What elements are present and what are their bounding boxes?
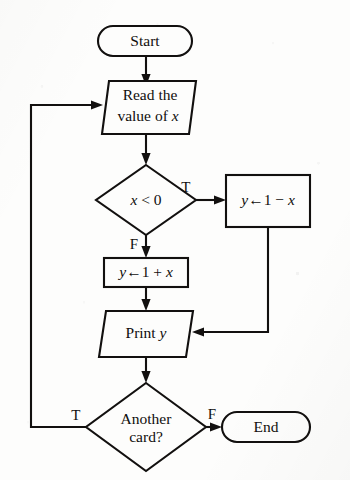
node-assign-plus-label: y←1 + x bbox=[117, 263, 173, 280]
edge-test-false-to-assign-plus bbox=[141, 235, 150, 258]
edge-print-to-another bbox=[141, 357, 150, 383]
node-assign-plus[interactable]: y←1 + x bbox=[104, 258, 188, 287]
node-start[interactable]: Start bbox=[98, 26, 192, 56]
arrowhead-icon bbox=[210, 422, 222, 431]
node-read[interactable]: Read the value of x bbox=[102, 81, 196, 134]
branch-label-test-true: T bbox=[181, 179, 190, 195]
flowchart-page: Start Read the value of x x < 0 T F y←1 … bbox=[0, 0, 350, 480]
node-read-label-line1: Read the bbox=[123, 86, 178, 103]
node-read-label-prefix: value of bbox=[117, 107, 171, 124]
node-assign-minus-label: y←1 − x bbox=[239, 191, 295, 208]
arrowhead-icon bbox=[214, 195, 226, 204]
edge-another-false-to-end bbox=[206, 422, 222, 431]
node-print-label-text: Print bbox=[126, 324, 160, 341]
arrowhead-icon bbox=[141, 299, 150, 311]
node-assign-minus-arrow-icon: ← bbox=[248, 191, 264, 208]
branch-label-another-true: T bbox=[71, 407, 80, 423]
branch-label-another-false: F bbox=[208, 406, 217, 422]
node-another-label-line1: Another bbox=[121, 410, 173, 427]
flowchart-canvas: Start Read the value of x x < 0 T F y←1 … bbox=[0, 0, 350, 480]
edge-read-to-test bbox=[141, 135, 150, 165]
node-another-label-line2: card? bbox=[129, 428, 163, 445]
edge-test-true-to-assign-minus bbox=[196, 195, 226, 204]
arrowhead-icon bbox=[141, 246, 150, 258]
arrowhead-icon bbox=[192, 327, 204, 336]
arrowhead-icon bbox=[141, 371, 150, 383]
node-test-label: x < 0 bbox=[129, 191, 161, 208]
node-test-label-var: x bbox=[129, 191, 137, 208]
arrowhead-icon bbox=[141, 153, 150, 165]
node-assign-plus-var2: x bbox=[165, 263, 173, 280]
node-assign-minus[interactable]: y←1 − x bbox=[226, 175, 310, 227]
node-start-label: Start bbox=[130, 32, 160, 49]
node-print-label-var: y bbox=[158, 324, 167, 341]
node-assign-minus-mid: 1 − bbox=[264, 191, 288, 208]
node-end-label: End bbox=[254, 418, 279, 435]
node-print-label: Print y bbox=[126, 324, 167, 341]
node-test-label-rest: < 0 bbox=[137, 191, 161, 208]
edge-another-true-to-read-loop bbox=[31, 100, 103, 427]
node-assign-plus-var1: y bbox=[117, 263, 126, 280]
edge-assign-plus-to-print bbox=[141, 287, 150, 311]
node-assign-minus-var1: y bbox=[239, 191, 248, 208]
node-another[interactable]: Another card? bbox=[86, 383, 206, 471]
node-assign-plus-mid: 1 + bbox=[142, 263, 166, 280]
node-assign-minus-var2: x bbox=[287, 191, 295, 208]
node-end[interactable]: End bbox=[222, 412, 310, 442]
branch-label-test-false: F bbox=[130, 236, 139, 252]
node-read-label-var: x bbox=[171, 107, 179, 124]
arrowhead-icon bbox=[91, 100, 103, 109]
node-assign-plus-arrow-icon: ← bbox=[126, 263, 142, 280]
edge-assign-minus-to-print bbox=[192, 227, 268, 337]
node-read-label-line2: value of x bbox=[117, 107, 178, 124]
node-print[interactable]: Print y bbox=[99, 311, 193, 357]
node-test[interactable]: x < 0 bbox=[96, 165, 196, 235]
